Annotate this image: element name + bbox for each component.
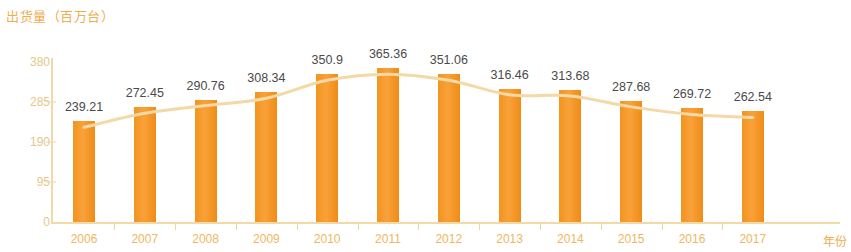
x-tick-mark [662,223,663,230]
x-tick-label: 2015 [618,232,645,246]
shipments-bar-chart: 出货量（百万台） 095190285380 200620072008200920… [0,0,851,252]
bar [255,92,277,222]
bar-value-label: 262.54 [734,90,772,104]
bar-value-label: 269.72 [673,87,711,101]
y-tick-label: 285 [0,95,50,109]
bar-value-label: 350.9 [312,53,343,67]
bar [316,74,338,222]
x-tick-label: 2007 [131,232,158,246]
bar [559,90,581,222]
x-tick-label: 2009 [253,232,280,246]
bar [195,100,217,222]
x-tick-label: 2016 [679,232,706,246]
y-tick-mark [46,182,56,183]
x-tick-label: 2013 [496,232,523,246]
x-tick-mark [418,223,419,230]
bar-value-label: 272.45 [126,86,164,100]
bar-value-label: 316.46 [490,68,528,82]
x-tick-mark [722,223,723,230]
bar-value-label: 287.68 [612,80,650,94]
bar-value-label: 239.21 [65,100,103,114]
x-tick-mark [236,223,237,230]
x-tick-label: 2017 [739,232,766,246]
x-tick-label: 2006 [71,232,98,246]
y-tick-mark [46,102,56,103]
y-tick-mark [46,142,56,143]
bar [438,74,460,222]
bar [499,89,521,222]
x-tick-mark [358,223,359,230]
bar-value-label: 308.34 [247,71,285,85]
y-tick-label: 190 [0,135,50,149]
x-axis-title: 年份 [823,232,847,249]
bar [681,108,703,222]
y-tick-label: 0 [0,215,50,229]
x-tick-label: 2011 [375,232,401,246]
x-tick-mark [479,223,480,230]
bar [742,111,764,222]
x-tick-label: 2012 [435,232,462,246]
bar [134,107,156,222]
chart-title: 出货量（百万台） [6,6,114,25]
bar-value-label: 313.68 [551,69,589,83]
x-tick-label: 2014 [557,232,584,246]
x-tick-label: 2008 [192,232,219,246]
x-tick-label: 2010 [314,232,341,246]
bar-value-label: 351.06 [430,53,468,67]
x-tick-mark [175,223,176,230]
x-tick-mark [297,223,298,230]
x-tick-mark [114,223,115,230]
bar [377,68,399,222]
x-tick-mark [601,223,602,230]
bar [620,101,642,222]
y-tick-label: 95 [0,175,50,189]
y-tick-label: 380 [0,55,50,69]
bar-value-label: 365.36 [369,47,407,61]
bar-value-label: 290.76 [186,79,224,93]
trend-line-overlay [0,0,851,252]
bar [73,121,95,222]
x-tick-mark [540,223,541,230]
